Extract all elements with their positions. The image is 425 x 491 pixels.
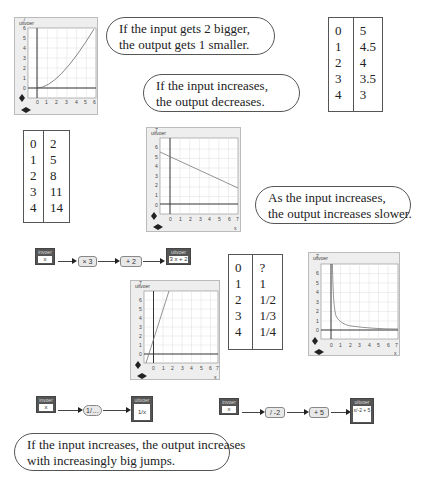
bubble-line: If the input gets 2 bigger, [119,21,262,37]
output-node[interactable]: uitvoer x/-2 + 5 [350,398,374,424]
node-value: x [39,404,53,411]
graph-canvas: uitvoer 01234567 01234567 x [131,281,221,381]
graph-canvas: uitvoer 01234567 01234567 x [147,128,242,233]
table-cell: 8 [50,168,63,184]
svg-text:5: 5 [316,280,319,286]
table-cell: 1 [235,276,246,292]
value-table: 0 1 2 3 4 2 5 8 11 14 [23,130,70,223]
node-value: 3 x + 2 [169,256,188,263]
svg-text:6: 6 [155,144,158,150]
node-header: invoer [36,249,54,256]
table-cell: 4 [235,324,246,340]
bubble-line: If the input increases, the output incre… [27,437,217,453]
vertical-pan-icon [151,212,157,220]
node-header: invoer [220,399,238,406]
svg-text:0: 0 [139,351,142,357]
bubble-line: the output increases slower. [268,206,398,222]
input-node[interactable]: invoer x [219,398,239,415]
table-cell: 1 [259,276,276,292]
output-node[interactable]: uitvoer 1/x [131,396,153,422]
svg-text:1: 1 [139,342,142,348]
vertical-pan-icon [19,94,25,102]
input-column: 0 1 2 3 4 [229,255,252,349]
input-node[interactable]: invoer x [35,248,55,265]
input-column: 0 1 2 3 4 [329,18,353,111]
svg-text:0: 0 [152,365,155,371]
operation-node[interactable]: / -2 [265,407,285,418]
arrow-right-icon [160,258,165,264]
wire [242,412,262,413]
table-cell: 2 [30,168,37,184]
graph-title: uitvoer [19,20,34,26]
table-cell: 3 [335,71,347,87]
node-value: 1/x [134,404,150,420]
svg-text:2: 2 [349,342,352,348]
svg-text:2: 2 [189,216,192,222]
svg-text:7: 7 [216,365,219,371]
svg-text:1: 1 [339,342,342,348]
table-cell: 3 [235,308,246,324]
table-cell: 1 [30,152,37,168]
bubble-line: with increasingly big jumps. [27,453,217,469]
input-node[interactable]: invoer x [36,396,56,413]
table-cell: 2 [235,292,246,308]
vertical-pan-icon [312,337,318,345]
horizontal-pan-icon [153,224,163,230]
operation-node[interactable]: + 5 [309,407,329,418]
svg-text:5: 5 [84,99,87,105]
svg-text:x: x [214,374,217,380]
operation-node[interactable]: × 3 [78,256,97,267]
graph-title: uitvoer [151,130,166,136]
svg-text:3: 3 [65,99,68,105]
graph-steep-line: uitvoer 01234567 01234567 x [130,280,220,380]
table-cell: 4 [360,55,376,71]
table-cell: ? [259,260,276,276]
svg-text:6: 6 [93,99,96,105]
input-column: 0 1 2 3 4 [24,131,43,222]
statement-bubble: As the input increases, the output incre… [255,186,411,224]
svg-text:6: 6 [139,297,142,303]
svg-text:0: 0 [169,216,172,222]
table-cell: 0 [30,136,37,152]
output-column: ? 1 1/2 1/3 1/4 [252,255,282,349]
svg-text:1: 1 [155,192,158,198]
table-cell: 14 [50,200,63,216]
wire [58,410,80,411]
svg-text:5: 5 [155,154,158,160]
node-header: uitvoer [167,249,190,256]
svg-text:4: 4 [23,45,26,51]
arrow-right-icon [72,258,77,264]
svg-text:6: 6 [228,216,231,222]
statement-bubble: If the input increases, the output decre… [143,74,300,112]
svg-text:2: 2 [171,365,174,371]
node-header: invoer [37,397,55,404]
table-cell: 3 [30,184,37,200]
svg-text:1: 1 [162,365,165,371]
statement-bubble: If the input gets 2 bigger, the output g… [106,17,275,55]
operation-node[interactable]: + 2 [120,256,142,267]
svg-text:0: 0 [36,99,39,105]
svg-text:7: 7 [395,342,398,348]
svg-text:3: 3 [139,324,142,330]
horizontal-pan-icon [314,349,324,355]
bubble-line: As the input increases, [268,190,398,206]
output-node[interactable]: uitvoer 3 x + 2 [166,248,191,265]
graph-reciprocal-curve: uitvoer 01234567 01234567 x [308,252,400,356]
horizontal-pan-icon [137,373,147,379]
svg-text:2: 2 [316,308,319,314]
svg-text:3: 3 [199,216,202,222]
svg-text:3: 3 [358,342,361,348]
svg-text:4: 4 [139,315,142,321]
svg-text:5: 5 [218,216,221,222]
table-cell: 11 [50,184,63,200]
operation-node[interactable]: 1/… [83,405,102,416]
table-cell: 0 [335,23,347,39]
graph-canvas: uitvoer 01234567 01234567 x [309,253,401,357]
table-cell: 1 [335,39,347,55]
svg-text:4: 4 [155,163,158,169]
table-cell: 2 [50,136,63,152]
output-column: 2 5 8 11 14 [43,131,69,222]
value-table: 0 1 2 3 4 ? 1 1/2 1/3 1/4 [228,254,283,350]
svg-text:x: x [234,225,237,231]
svg-text:4: 4 [75,99,78,105]
